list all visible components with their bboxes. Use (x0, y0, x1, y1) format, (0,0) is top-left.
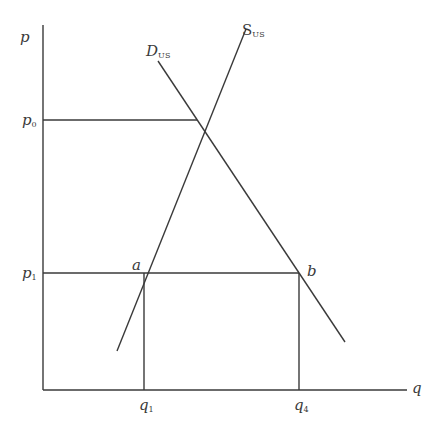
point-a-label: a (132, 256, 141, 274)
supply-curve-label: SUS (242, 21, 265, 39)
supply-demand-diagram: p q p0 p1 q1 q4 SUS DUS a b (0, 0, 440, 429)
p0-label: p0 (22, 111, 37, 129)
p1-label: p1 (22, 264, 37, 282)
point-b-label: b (307, 262, 317, 280)
x-axis-label: q (412, 379, 422, 397)
demand-curve (158, 61, 345, 342)
q4-label: q4 (294, 396, 309, 414)
demand-curve-label: DUS (145, 42, 171, 60)
y-axis-label: p (20, 28, 30, 46)
supply-curve (117, 29, 246, 351)
q1-label: q1 (139, 396, 154, 414)
